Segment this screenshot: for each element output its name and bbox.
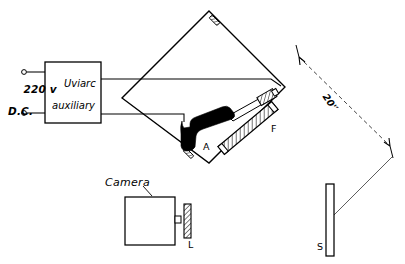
lens-label: L: [188, 240, 193, 250]
ray-line-to-screen: [334, 157, 392, 215]
dimension-line: [296, 45, 393, 158]
technical-diagram: [0, 0, 405, 264]
uviarc-box-line1: Uviarc: [64, 78, 96, 89]
uviarc-box-line2: auxiliary: [46, 101, 101, 112]
camera-body: [125, 197, 175, 245]
uviarc-box-label: Uviarc auxiliary: [46, 68, 101, 132]
filter-label: F: [271, 124, 276, 134]
lens-mount: [175, 216, 181, 223]
screen-label: S: [317, 242, 323, 252]
figure-canvas: 220 v D.C. Uviarc auxiliary A F L S Came…: [0, 0, 405, 264]
wire-lower: [101, 114, 184, 122]
screen-bar: [326, 184, 334, 256]
camera-label: Camera: [105, 177, 150, 189]
lamp-head: [257, 87, 280, 105]
lens-bar: [184, 204, 191, 238]
arc-lamp-label: A: [203, 142, 210, 152]
wire-upper: [101, 79, 281, 86]
